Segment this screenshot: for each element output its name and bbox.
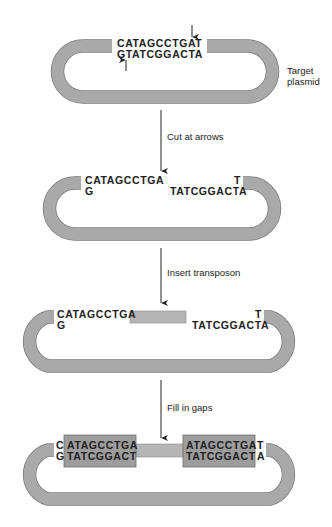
transposon-bar xyxy=(130,311,186,323)
step-cut: Cut at arrows xyxy=(161,110,224,171)
plasmid-with-transposon: CATAGCCTGA G T TATCGGACTA xyxy=(30,308,289,366)
step-label: Cut at arrows xyxy=(167,131,224,142)
step-label: Insert transposon xyxy=(167,267,240,278)
left-bottom-strand: G xyxy=(57,319,66,331)
step-insert: Insert transposon xyxy=(161,248,240,303)
right-bottom-strand: TATCGGACTA xyxy=(170,185,247,197)
filled-plasmid: C G ATAGCCTGA TATCGGACT ATAGCCTGA TATCGG… xyxy=(30,435,289,499)
right-end-bottom: A xyxy=(257,450,265,462)
target-plasmid-label-line2: plasmid xyxy=(287,76,320,87)
left-top-strand: CATAGCCTGA xyxy=(57,308,136,320)
left-box-bottom-strand: TATCGGACT xyxy=(67,450,137,462)
step-label: Fill in gaps xyxy=(167,402,213,413)
right-bottom-strand: TATCGGACTA xyxy=(192,319,269,331)
bottom-strand-sequence: GTATCGGACTA xyxy=(117,48,203,60)
cut-plasmid: CATAGCCTGA G T TATCGGACTA xyxy=(50,174,275,234)
step-fill: Fill in gaps xyxy=(161,380,213,438)
target-plasmid-label-line1: Target xyxy=(287,65,314,76)
transposon-bar xyxy=(136,444,183,457)
left-top-strand: CATAGCCTGA xyxy=(85,174,164,186)
left-end-bottom: G xyxy=(56,450,65,462)
right-box-bottom-strand: TATCGGACT xyxy=(186,450,256,462)
target-plasmid: CATAGCCTGAT GTATCGGACTA Target plasmid xyxy=(58,25,320,97)
left-bottom-strand: G xyxy=(85,185,94,197)
transposon-insertion-diagram: CATAGCCTGAT GTATCGGACTA Target plasmid C… xyxy=(0,0,332,527)
